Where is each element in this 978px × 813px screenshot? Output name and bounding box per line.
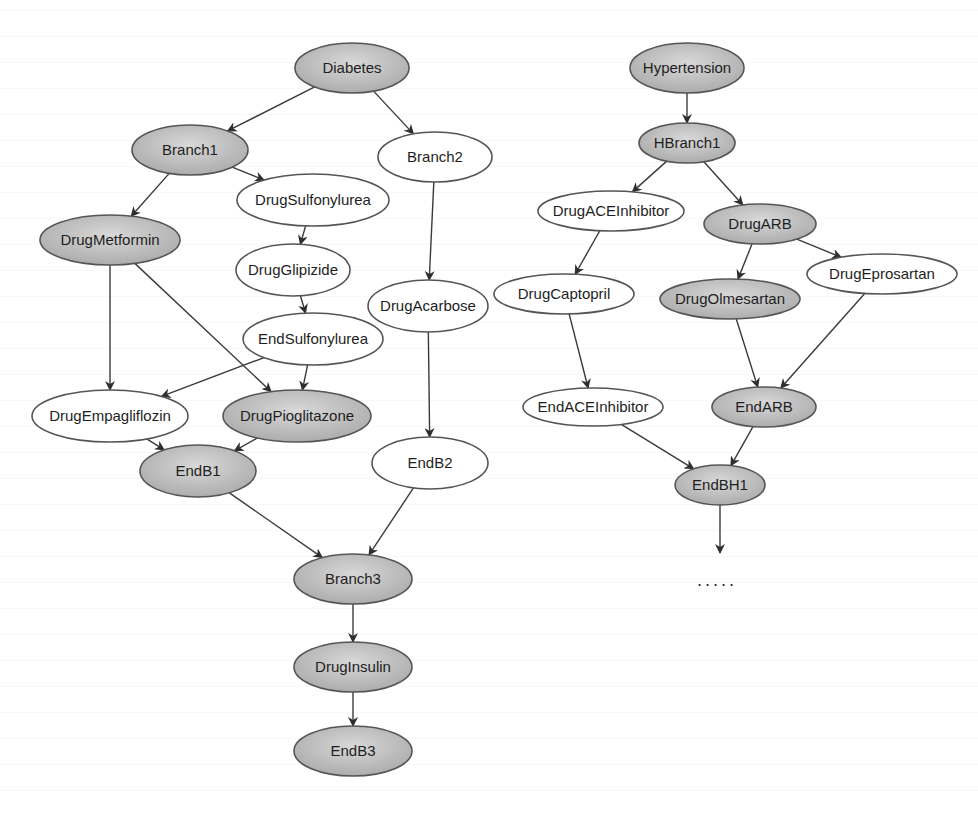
node-branch2: Branch2 — [378, 132, 492, 182]
edge-drug-aceinhibitor-to-drug-captopril — [575, 231, 600, 274]
node-label: Branch1 — [162, 141, 218, 158]
node-end-arb: EndARB — [712, 387, 816, 427]
node-label: DrugAcarbose — [380, 297, 476, 314]
node-label: EndB2 — [407, 454, 452, 471]
node-drug-insulin: DrugInsulin — [294, 642, 412, 692]
node-end-aceinhibitor: EndACEInhibitor — [523, 388, 663, 426]
node-label: DrugACEInhibitor — [553, 202, 670, 219]
node-end-b3: EndB3 — [294, 726, 412, 776]
edge-drug-sulfonylurea-to-drug-glipizide — [300, 226, 305, 244]
node-drug-aceinhibitor: DrugACEInhibitor — [538, 191, 684, 231]
node-end-b1: EndB1 — [140, 445, 256, 497]
node-label: DrugCaptopril — [518, 285, 611, 302]
edge-hbranch1-to-drug-arb — [704, 162, 743, 205]
node-drug-sulfonylurea: DrugSulfonylurea — [237, 174, 389, 226]
node-label: HBranch1 — [654, 134, 721, 151]
edge-drug-acarbose-to-end-b2 — [428, 332, 429, 437]
node-label: EndARB — [735, 398, 793, 415]
edge-diabetes-to-branch1 — [228, 87, 315, 131]
node-label: DrugPioglitazone — [240, 407, 354, 424]
edge-end-b2-to-branch3 — [369, 488, 413, 555]
node-end-sulfonylurea: EndSulfonylurea — [243, 313, 383, 365]
node-label: EndB3 — [330, 742, 375, 759]
node-branch3: Branch3 — [294, 554, 412, 604]
treatment-pathway-diagram: DiabetesBranch1Branch2DrugSulfonylureaDr… — [0, 0, 978, 813]
node-label: DrugMetformin — [60, 231, 159, 248]
node-label: Branch2 — [407, 148, 463, 165]
node-drug-eprosartan: DrugEprosartan — [807, 254, 957, 294]
node-label: EndSulfonylurea — [258, 330, 369, 347]
node-label: DrugEmpagliflozin — [49, 407, 171, 424]
node-label: DrugSulfonylurea — [255, 191, 372, 208]
node-drug-glipizide: DrugGlipizide — [236, 244, 350, 296]
node-drug-olmesartan: DrugOlmesartan — [660, 279, 800, 319]
node-branch1: Branch1 — [132, 125, 248, 175]
edge-drug-arb-to-drug-eprosartan — [797, 239, 841, 257]
edge-drug-glipizide-to-end-sulfonylurea — [300, 296, 305, 313]
nodes-layer: DiabetesBranch1Branch2DrugSulfonylureaDr… — [32, 43, 957, 776]
node-label: Branch3 — [325, 570, 381, 587]
node-drug-pioglitazone: DrugPioglitazone — [223, 390, 371, 442]
node-drug-acarbose: DrugAcarbose — [368, 280, 488, 332]
node-label: Diabetes — [322, 59, 381, 76]
node-label: EndACEInhibitor — [538, 398, 649, 415]
node-end-bh1: EndBH1 — [675, 465, 765, 505]
edge-branch2-to-drug-acarbose — [429, 182, 434, 280]
node-label: DrugInsulin — [315, 658, 391, 675]
node-hypertension: Hypertension — [630, 43, 744, 93]
edge-drug-olmesartan-to-end-arb — [736, 319, 757, 387]
continuation-ellipsis: ..... — [697, 570, 737, 590]
edge-end-sulfonylurea-to-drug-empagliflozin — [161, 358, 264, 397]
node-drug-empagliflozin: DrugEmpagliflozin — [32, 390, 188, 442]
node-label: DrugGlipizide — [248, 261, 338, 278]
edge-branch1-to-drug-metformin — [131, 173, 169, 216]
edge-drug-arb-to-drug-olmesartan — [738, 244, 752, 279]
edge-end-b1-to-branch3 — [229, 493, 322, 558]
node-end-b2: EndB2 — [372, 437, 488, 489]
continuation-layer: ..... — [697, 505, 737, 590]
node-label: DrugOlmesartan — [675, 290, 785, 307]
node-label: DrugEprosartan — [829, 265, 935, 282]
edge-end-arb-to-end-bh1 — [731, 427, 753, 466]
edge-diabetes-to-branch2 — [374, 91, 414, 134]
node-drug-captopril: DrugCaptopril — [494, 274, 634, 314]
node-drug-metformin: DrugMetformin — [40, 215, 180, 265]
edge-end-sulfonylurea-to-drug-pioglitazone — [302, 365, 307, 390]
node-label: EndBH1 — [692, 476, 748, 493]
edge-drug-empagliflozin-to-end-b1 — [147, 439, 164, 450]
edge-hbranch1-to-drug-aceinhibitor — [632, 161, 666, 192]
node-label: Hypertension — [643, 59, 731, 76]
node-label: EndB1 — [175, 462, 220, 479]
edge-branch1-to-drug-sulfonylurea — [232, 167, 264, 180]
node-hbranch1: HBranch1 — [639, 123, 735, 163]
edge-drug-pioglitazone-to-end-b1 — [234, 438, 257, 451]
node-label: DrugARB — [728, 215, 791, 232]
edge-end-aceinhibitor-to-end-bh1 — [621, 424, 693, 468]
node-diabetes: Diabetes — [295, 43, 409, 93]
edge-drug-captopril-to-end-aceinhibitor — [569, 314, 588, 388]
node-drug-arb: DrugARB — [704, 204, 816, 244]
